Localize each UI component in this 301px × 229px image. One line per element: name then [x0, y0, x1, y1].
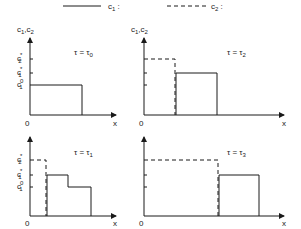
c2-profile — [144, 59, 175, 115]
panel-tau1: c*2 c*1 c01 τ = τ1 0 x — [17, 137, 117, 228]
panel-tau3: τ = τ3 0 x — [139, 137, 286, 228]
legend-c2-label: c2 : — [211, 2, 223, 12]
c1-profile — [176, 73, 217, 115]
origin-label: 0 — [25, 119, 30, 128]
legend-c1-label: c1 : — [108, 2, 120, 12]
diagram-canvas: c1 : c2 : c1,c2 c*2 c*1 c01 τ = τ0 0 x c… — [0, 0, 301, 229]
panel-title: τ = τ3 — [227, 148, 246, 158]
label-c1-star: c*1 — [17, 66, 23, 78]
c2-profile — [144, 160, 218, 216]
panel-tau2: c1,c2 τ = τ2 0 x — [131, 25, 286, 128]
x-axis-label: x — [113, 219, 117, 228]
label-c1-star: c*1 — [17, 168, 23, 180]
c2-profile — [30, 160, 46, 216]
panel-title: τ = τ1 — [74, 148, 93, 158]
origin-label: 0 — [25, 219, 30, 228]
x-axis-label: x — [282, 219, 286, 228]
y-axis-label: c1,c2 — [17, 25, 35, 35]
label-c1-zero: c01 — [17, 180, 24, 192]
origin-label: 0 — [139, 219, 144, 228]
panel-tau0: c1,c2 c*2 c*1 c01 τ = τ0 0 x — [17, 25, 117, 128]
y-axis-label: c1,c2 — [131, 25, 149, 35]
c1-profile — [219, 175, 259, 216]
legend: c1 : c2 : — [63, 2, 223, 12]
origin-label: 0 — [139, 119, 144, 128]
x-axis-label: x — [113, 119, 117, 128]
label-c2-star: c*2 — [17, 153, 23, 165]
c1-profile — [47, 175, 91, 216]
label-c2-star: c*2 — [17, 52, 23, 64]
panel-title: τ = τ0 — [74, 48, 93, 58]
label-c1-zero: c01 — [17, 78, 24, 90]
panel-title: τ = τ2 — [227, 48, 246, 58]
x-axis-label: x — [282, 119, 286, 128]
c1-profile — [30, 85, 82, 115]
